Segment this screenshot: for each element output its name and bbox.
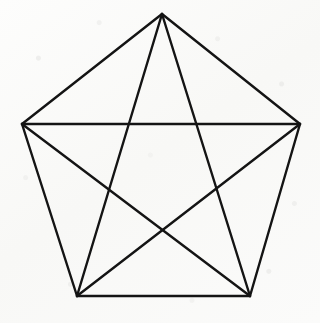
diagonal-bottom-right-to-left [22, 124, 250, 296]
diagonal-right-to-bottom-left [77, 124, 300, 296]
diagonal-top-to-bottom-left [77, 14, 162, 296]
diagonal-top-to-bottom-right [162, 14, 250, 296]
pentagon-edge-right [250, 124, 300, 296]
figure-canvas [0, 0, 320, 323]
pentagram-drawing [0, 0, 320, 323]
pentagon-edge-left [22, 124, 77, 296]
pentagon-edge-top-right [162, 14, 300, 124]
pentagon-edge-top-left [22, 14, 162, 124]
